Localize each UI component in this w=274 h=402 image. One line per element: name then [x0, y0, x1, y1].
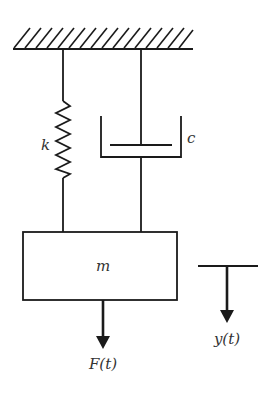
force-arrow — [96, 300, 110, 349]
ground-hatching — [14, 28, 193, 48]
damper-label: c — [187, 129, 196, 147]
mass-label: m — [96, 257, 110, 275]
displacement-indicator — [198, 266, 258, 323]
spring — [56, 49, 70, 232]
force-label: F(t) — [88, 355, 117, 373]
displacement-label: y(t) — [213, 330, 240, 348]
arrowhead-icon — [96, 336, 110, 349]
damper — [101, 49, 181, 232]
spring-label: k — [41, 136, 50, 154]
mass-spring-damper-diagram: k c m F(t) y(t) — [0, 0, 274, 402]
arrowhead-icon — [220, 310, 234, 323]
ground-support — [13, 28, 193, 49]
